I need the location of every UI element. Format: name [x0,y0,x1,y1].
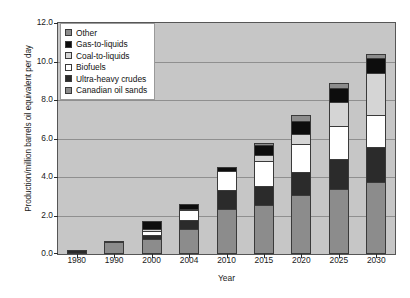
bar-segment [292,122,310,135]
bar-segment [255,156,273,163]
bar-segment [330,160,348,190]
stacked-bar [179,204,199,254]
bar-segment [367,74,385,116]
legend-label: Biofuels [76,63,106,71]
legend-label: Ultra-heavy crudes [76,75,146,83]
x-tick-label: 2030 [367,256,386,264]
bar-segment [292,145,310,173]
bar-segment [292,135,310,145]
legend-label: Canadian oil sands [76,86,147,94]
bar-segment [255,206,273,253]
y-tick-mark [54,23,58,24]
y-tick-mark [54,62,58,63]
bar-segment [330,127,348,159]
y-tick-label: 10.0 [27,57,53,65]
bar-segment [180,221,198,230]
bar-segment [143,240,161,253]
legend-swatch-icon [65,52,72,59]
bar-segment [292,173,310,196]
stacked-bar [291,115,311,254]
legend-item: Ultra-heavy crudes [65,73,147,85]
y-tick-label: 6.0 [27,134,53,142]
bar-segment [68,251,86,253]
legend-swatch-icon [65,87,72,94]
y-axis-tick-labels: 0.02.04.06.08.010.012.0 [24,0,53,298]
legend-swatch-icon [65,29,72,36]
x-tick-label: 1980 [67,256,86,264]
y-tick-mark [54,253,58,254]
bar-segment [330,103,348,128]
y-tick-label: 4.0 [27,172,53,180]
chart-figure: Production/million barrels oil equivalen… [0,0,410,298]
bar-segment [367,59,385,74]
bar-segment [143,222,161,230]
bar-segment [367,116,385,148]
bar-segment [330,89,348,102]
x-tick-label: 1990 [105,256,124,264]
x-tick-label: 2004 [180,256,199,264]
legend-item: Biofuels [65,62,147,74]
legend-label: Gas-to-liquids [76,40,128,48]
bar-segment [218,191,236,210]
bar-segment [180,230,198,253]
y-tick-mark [54,216,58,217]
bar-segment [105,243,123,253]
legend-swatch-icon [65,75,72,82]
y-tick-label: 0.0 [27,249,53,257]
bar-segment [367,183,385,254]
y-tick-label: 12.0 [27,18,53,26]
y-tick-mark [54,177,58,178]
stacked-bar [104,241,124,254]
y-tick-mark [54,100,58,101]
bar-segment [367,148,385,182]
y-tick-label: 2.0 [27,211,53,219]
legend-label: Other [76,29,97,37]
legend-item: Other [65,27,147,39]
x-tick-label: 2010 [217,256,236,264]
bar-segment [255,187,273,206]
bar-segment [180,211,198,220]
y-tick-mark [54,139,58,140]
legend-swatch-icon [65,41,72,48]
bar-segment [292,196,310,253]
x-axis-title: Year [57,273,396,283]
x-tick-label: 2000 [142,256,161,264]
bar-segment [218,172,236,191]
legend-swatch-icon [65,64,72,71]
stacked-bar [329,83,349,254]
x-axis-tick-labels: 198019902000200420102015202020252030 [57,256,396,270]
legend-item: Gas-to-liquids [65,39,147,51]
x-tick-label: 2025 [330,256,349,264]
bar-segment [255,162,273,187]
bar-segment [218,210,236,253]
stacked-bar [217,167,237,254]
stacked-bar [366,54,386,254]
legend-item: Coal-to-liquids [65,50,147,62]
stacked-bar [142,221,162,254]
legend-item: Canadian oil sands [65,85,147,97]
x-tick-label: 2015 [255,256,274,264]
chart-legend: OtherGas-to-liquidsCoal-to-liquidsBiofue… [60,23,155,100]
legend-label: Coal-to-liquids [76,52,130,60]
stacked-bar [254,143,274,254]
x-tick-label: 2020 [292,256,311,264]
bar-segment [255,146,273,155]
bar-segment [330,190,348,253]
y-tick-label: 8.0 [27,95,53,103]
